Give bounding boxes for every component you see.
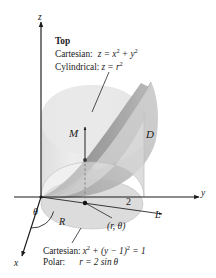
- top-annotation-block: Top Cartesian:z = x2 + y2 Cylindrical:z …: [55, 36, 138, 72]
- top-annotation-heading: Top: [55, 36, 138, 46]
- bottom-cartesian-label: Cartesian:: [43, 246, 81, 256]
- x-axis-label: x: [14, 258, 18, 269]
- r-theta-point-label: (r, θ): [107, 221, 125, 232]
- top-annotation-row-cartesian: Cartesian:z = x2 + y2: [55, 47, 138, 60]
- z-axis-label: z: [38, 12, 42, 23]
- origin-dot: [39, 195, 42, 198]
- top-cylindrical-label: Cylindrical:: [55, 62, 99, 72]
- bottom-annotation-row-cartesian: Cartesian:x2 + (y − 1)2 = 1: [43, 244, 146, 257]
- top-cartesian-equation: z = x2 + y2: [98, 47, 138, 60]
- x-axis: [22, 197, 41, 256]
- bottom-annotation-row-polar: Polar:r = 2 sin θ: [43, 257, 146, 267]
- ray-L-label: L: [155, 209, 161, 220]
- top-cylindrical-equation: z = r2: [101, 60, 122, 73]
- theta-angle-label: θ: [33, 206, 38, 217]
- bottom-polar-equation: r = 2 sin θ: [79, 257, 118, 267]
- bottom-cartesian-equation: x2 + (y − 1)2 = 1: [83, 244, 146, 257]
- bottom-annotation-block: Cartesian:x2 + (y − 1)2 = 1 Polar:r = 2 …: [43, 243, 146, 267]
- bottom-polar-label: Polar:: [43, 257, 65, 267]
- leader-base-region: [72, 228, 81, 243]
- segment-M-label: M: [69, 127, 78, 139]
- r-theta-point-dot: [83, 201, 87, 205]
- y-axis-tick-2-label: 2: [126, 196, 131, 207]
- top-annotation-row-cylindrical: Cylindrical:z = r2: [55, 60, 138, 73]
- region-R-label: R: [59, 216, 65, 227]
- m-top-point: [83, 158, 87, 162]
- solid-D-label: D: [146, 128, 154, 140]
- y-axis-label: y: [201, 188, 205, 199]
- top-cartesian-label: Cartesian:: [55, 49, 93, 59]
